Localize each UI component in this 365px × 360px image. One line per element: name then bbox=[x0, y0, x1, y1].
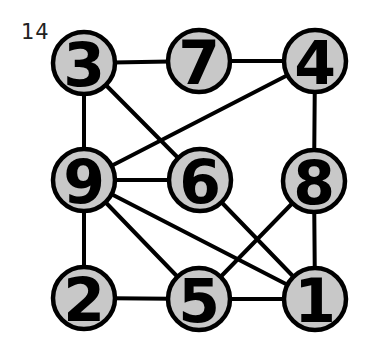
node-9: 9 bbox=[53, 147, 115, 217]
graph-diagram: 374968251 bbox=[0, 0, 365, 360]
node-number: 1 bbox=[294, 266, 336, 336]
node-number: 4 bbox=[294, 28, 336, 98]
node-number: 8 bbox=[293, 148, 335, 218]
node-number: 9 bbox=[63, 147, 105, 217]
node-1: 1 bbox=[284, 266, 346, 336]
node-5: 5 bbox=[168, 266, 230, 336]
node-3: 3 bbox=[53, 30, 115, 100]
node-6: 6 bbox=[169, 147, 231, 217]
node-number: 6 bbox=[179, 147, 221, 217]
node-2: 2 bbox=[53, 265, 115, 335]
node-number: 2 bbox=[63, 265, 105, 335]
node-8: 8 bbox=[283, 148, 345, 218]
node-number: 7 bbox=[178, 28, 220, 98]
node-7: 7 bbox=[168, 28, 230, 98]
node-4: 4 bbox=[284, 28, 346, 98]
nodes-layer: 374968251 bbox=[53, 28, 346, 336]
node-number: 5 bbox=[178, 266, 220, 336]
node-number: 3 bbox=[63, 30, 105, 100]
